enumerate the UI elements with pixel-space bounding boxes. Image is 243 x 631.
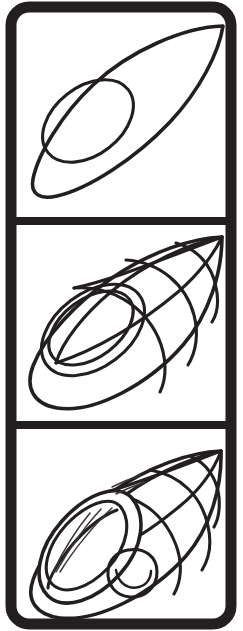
shell-body-outline-step1 bbox=[32, 26, 223, 197]
shell-body-outline-step2 bbox=[30, 237, 222, 409]
tutorial-artwork bbox=[0, 0, 243, 631]
panel-two bbox=[24, 237, 222, 409]
panel-one bbox=[27, 26, 223, 197]
panel-three bbox=[31, 451, 221, 618]
drawing-tutorial-sheet: How to Draw a Shell Step 1 Pointed oval … bbox=[0, 0, 243, 631]
